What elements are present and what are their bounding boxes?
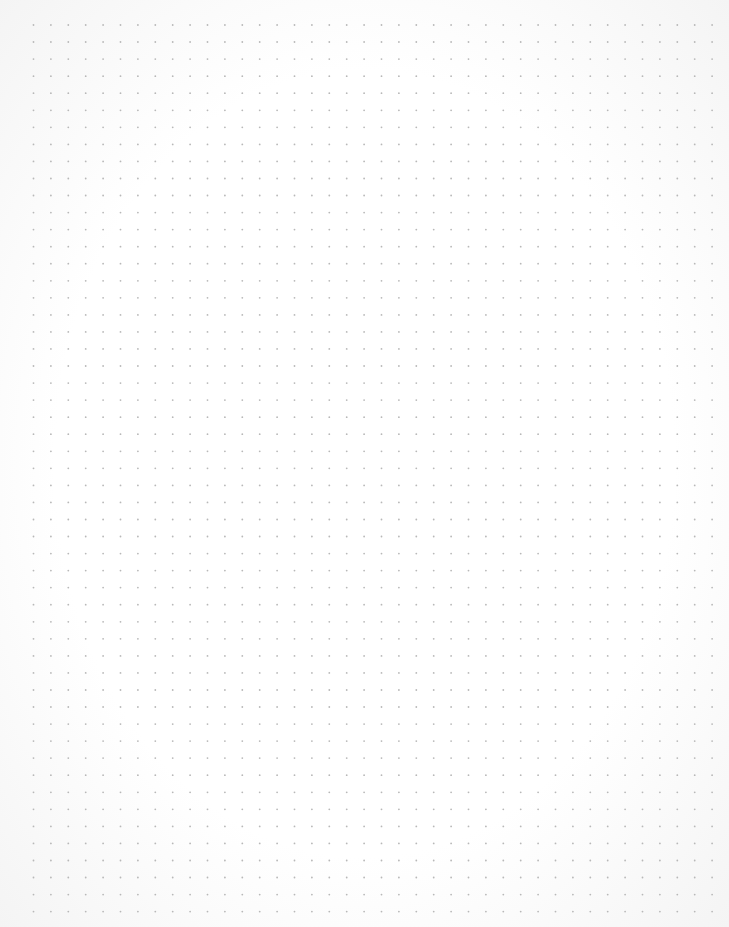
grid-dot — [589, 161, 591, 163]
grid-dot — [502, 774, 504, 776]
grid-dot — [398, 877, 400, 879]
grid-dot — [294, 58, 296, 60]
grid-dot — [415, 519, 417, 521]
grid-dot — [102, 655, 104, 657]
grid-dot — [224, 672, 226, 674]
grid-dot — [711, 911, 713, 913]
grid-dot — [415, 109, 417, 111]
grid-dot — [33, 894, 35, 896]
grid-dot — [137, 144, 139, 146]
grid-dot — [485, 399, 487, 401]
grid-dot — [172, 246, 174, 248]
grid-dot — [555, 280, 557, 282]
grid-dot — [346, 826, 348, 828]
grid-dot — [363, 911, 365, 913]
grid-dot — [363, 604, 365, 606]
grid-dot — [676, 774, 678, 776]
grid-dot — [67, 604, 69, 606]
grid-dot — [172, 229, 174, 231]
grid-dot — [241, 314, 243, 316]
grid-dot — [50, 229, 52, 231]
grid-dot — [207, 774, 209, 776]
grid-dot — [85, 877, 87, 879]
grid-dot — [85, 757, 87, 759]
grid-dot — [207, 365, 209, 367]
grid-dot — [450, 212, 452, 214]
grid-dot — [50, 24, 52, 26]
grid-dot — [259, 416, 261, 418]
grid-dot — [624, 843, 626, 845]
grid-dot — [259, 331, 261, 333]
grid-dot — [415, 280, 417, 282]
grid-dot — [207, 911, 209, 913]
grid-dot — [642, 433, 644, 435]
grid-dot — [33, 774, 35, 776]
grid-dot — [711, 655, 713, 657]
grid-dot — [607, 109, 609, 111]
grid-dot — [537, 587, 539, 589]
grid-dot — [381, 229, 383, 231]
grid-dot — [711, 24, 713, 26]
grid-dot — [589, 672, 591, 674]
grid-dot — [50, 382, 52, 384]
grid-dot — [328, 894, 330, 896]
grid-dot — [224, 348, 226, 350]
grid-dot — [328, 144, 330, 146]
grid-dot — [659, 246, 661, 248]
grid-dot — [172, 587, 174, 589]
grid-dot — [694, 280, 696, 282]
grid-dot — [363, 24, 365, 26]
grid-dot — [642, 808, 644, 810]
grid-dot — [67, 621, 69, 623]
grid-dot — [346, 502, 348, 504]
grid-dot — [450, 877, 452, 879]
grid-dot — [572, 621, 574, 623]
grid-dot — [33, 877, 35, 879]
grid-dot — [607, 587, 609, 589]
grid-dot — [485, 126, 487, 128]
grid-dot — [624, 229, 626, 231]
grid-dot — [241, 161, 243, 163]
grid-dot — [520, 24, 522, 26]
grid-dot — [50, 723, 52, 725]
grid-dot — [363, 229, 365, 231]
grid-dot — [450, 570, 452, 572]
grid-dot — [363, 808, 365, 810]
grid-dot — [259, 655, 261, 657]
grid-dot — [33, 638, 35, 640]
grid-dot — [711, 280, 713, 282]
grid-dot — [415, 621, 417, 623]
grid-dot — [381, 655, 383, 657]
grid-dot — [607, 450, 609, 452]
grid-dot — [468, 502, 470, 504]
grid-dot — [572, 314, 574, 316]
grid-dot — [67, 314, 69, 316]
grid-dot — [33, 263, 35, 265]
grid-dot — [450, 433, 452, 435]
grid-dot — [502, 911, 504, 913]
grid-dot — [137, 911, 139, 913]
grid-dot — [694, 314, 696, 316]
grid-dot — [172, 92, 174, 94]
grid-dot — [711, 877, 713, 879]
grid-dot — [433, 161, 435, 163]
grid-dot — [676, 24, 678, 26]
grid-dot — [555, 382, 557, 384]
grid-dot — [694, 24, 696, 26]
grid-dot — [102, 280, 104, 282]
grid-dot — [363, 212, 365, 214]
grid-dot — [537, 109, 539, 111]
grid-dot — [67, 570, 69, 572]
grid-dot — [137, 365, 139, 367]
grid-dot — [85, 553, 87, 555]
grid-dot — [433, 740, 435, 742]
grid-dot — [572, 433, 574, 435]
grid-dot — [572, 467, 574, 469]
grid-dot — [537, 860, 539, 862]
grid-dot — [259, 109, 261, 111]
grid-dot — [50, 757, 52, 759]
grid-dot — [468, 246, 470, 248]
grid-dot — [328, 161, 330, 163]
grid-dot — [154, 144, 156, 146]
grid-dot — [415, 860, 417, 862]
